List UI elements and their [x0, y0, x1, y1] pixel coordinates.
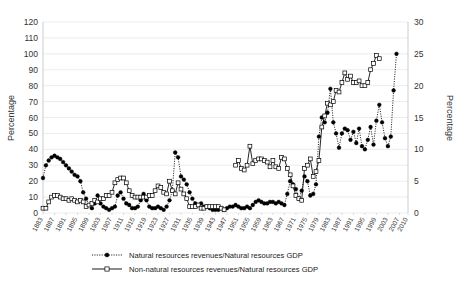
data-point-marker — [176, 155, 180, 159]
data-point-marker — [237, 159, 241, 163]
data-point-marker — [369, 125, 373, 129]
y-tick-label-left: 20 — [29, 176, 39, 186]
y-tick-label-left: 80 — [29, 81, 39, 91]
x-axis-ticks: 1883188718911895189919031907191119151919… — [31, 213, 409, 232]
gridlines — [43, 22, 408, 213]
y-axis-right-ticks: 051015202530 — [414, 17, 424, 218]
data-point-marker — [173, 192, 177, 196]
data-point-marker — [366, 81, 370, 85]
data-point-marker — [76, 175, 80, 179]
data-point-marker — [291, 184, 295, 188]
y-tick-label-right: 5 — [414, 176, 419, 186]
data-point-marker — [245, 163, 249, 167]
data-point-marker — [173, 151, 177, 155]
data-point-marker — [67, 167, 71, 171]
data-point-marker — [188, 190, 192, 194]
data-point-marker — [165, 205, 169, 209]
data-point-marker — [153, 189, 157, 193]
data-point-marker — [340, 132, 344, 136]
y-tick-label-left: 30 — [29, 160, 39, 170]
data-point-marker — [300, 198, 304, 202]
data-point-marker — [334, 132, 338, 136]
data-point-marker — [122, 197, 126, 201]
y-axis-left-title: Percentage — [6, 95, 16, 141]
data-point-marker — [317, 159, 321, 163]
data-point-marker — [110, 190, 114, 194]
data-point-marker — [185, 197, 189, 201]
data-point-marker — [308, 157, 312, 161]
y-tick-label-right: 15 — [414, 113, 424, 123]
data-point-marker — [127, 203, 131, 207]
data-point-marker — [349, 74, 353, 78]
data-point-marker — [320, 125, 324, 129]
data-point-marker — [306, 163, 310, 167]
data-point-marker — [360, 144, 364, 148]
data-point-marker — [136, 205, 140, 209]
y-tick-label-left: 110 — [24, 33, 38, 43]
data-point-marker — [248, 206, 252, 210]
data-point-marker — [168, 179, 172, 183]
y-tick-label-right: 30 — [414, 17, 424, 27]
legend-label-0: Natural resources revenues/Natural resou… — [129, 251, 303, 260]
y-tick-label-left: 90 — [29, 65, 39, 75]
data-point-marker — [306, 179, 310, 183]
x-tick-label: 1907 — [100, 216, 113, 233]
data-point-marker — [372, 143, 376, 147]
data-point-marker — [311, 175, 315, 179]
data-point-marker — [176, 181, 180, 185]
data-point-marker — [64, 163, 68, 167]
data-point-marker — [314, 170, 318, 174]
data-point-marker — [337, 146, 341, 150]
data-point-marker — [182, 192, 186, 196]
data-point-marker — [389, 135, 393, 139]
data-point-marker — [329, 87, 333, 91]
data-point-marker — [265, 160, 269, 164]
legend-marker-filled-circle — [105, 253, 109, 257]
data-point-marker — [369, 68, 373, 72]
data-point-marker — [357, 127, 361, 131]
data-point-marker — [283, 203, 287, 207]
data-point-marker — [248, 144, 252, 148]
data-point-marker — [392, 89, 396, 93]
data-point-marker — [182, 178, 186, 182]
data-point-marker — [375, 119, 379, 123]
data-point-marker — [44, 206, 48, 210]
data-point-marker — [119, 190, 123, 194]
plot-series — [41, 52, 398, 212]
data-point-marker — [179, 175, 183, 179]
data-point-marker — [288, 173, 292, 177]
data-point-marker — [331, 120, 335, 124]
data-point-marker — [317, 135, 321, 139]
y-tick-label-right: 10 — [414, 144, 424, 154]
data-point-marker — [340, 81, 344, 85]
data-point-marker — [242, 168, 246, 172]
data-point-marker — [383, 136, 387, 140]
data-point-marker — [277, 167, 281, 171]
y-tick-label-left: 70 — [29, 97, 39, 107]
y-tick-label-left: 60 — [29, 113, 39, 123]
data-point-marker — [70, 170, 74, 174]
data-point-marker — [271, 159, 275, 163]
y-tick-label-right: 25 — [414, 49, 424, 59]
data-point-marker — [165, 192, 169, 196]
legend-label-1: Non-natural resources revenues/Natural r… — [129, 265, 318, 274]
data-point-marker — [268, 165, 272, 169]
chart-svg: 0102030405060708090100110120 05101520253… — [0, 0, 460, 282]
y-tick-label-left: 40 — [29, 144, 39, 154]
data-point-marker — [285, 167, 289, 171]
data-point-marker — [222, 208, 226, 212]
data-point-marker — [81, 190, 85, 194]
data-point-marker — [357, 79, 361, 83]
data-point-marker — [363, 147, 367, 151]
chart-container: 0102030405060708090100110120 05101520253… — [0, 0, 460, 282]
data-point-marker — [113, 205, 117, 209]
data-point-marker — [185, 182, 189, 186]
y-tick-label-left: 100 — [24, 49, 38, 59]
data-point-marker — [234, 163, 238, 167]
data-point-marker — [352, 130, 356, 134]
data-point-marker — [311, 192, 315, 196]
y-tick-label-left: 50 — [29, 128, 39, 138]
y-tick-label-left: 10 — [29, 192, 39, 202]
y-axis-right-title: Percentage — [445, 95, 455, 141]
data-point-marker — [61, 160, 65, 164]
